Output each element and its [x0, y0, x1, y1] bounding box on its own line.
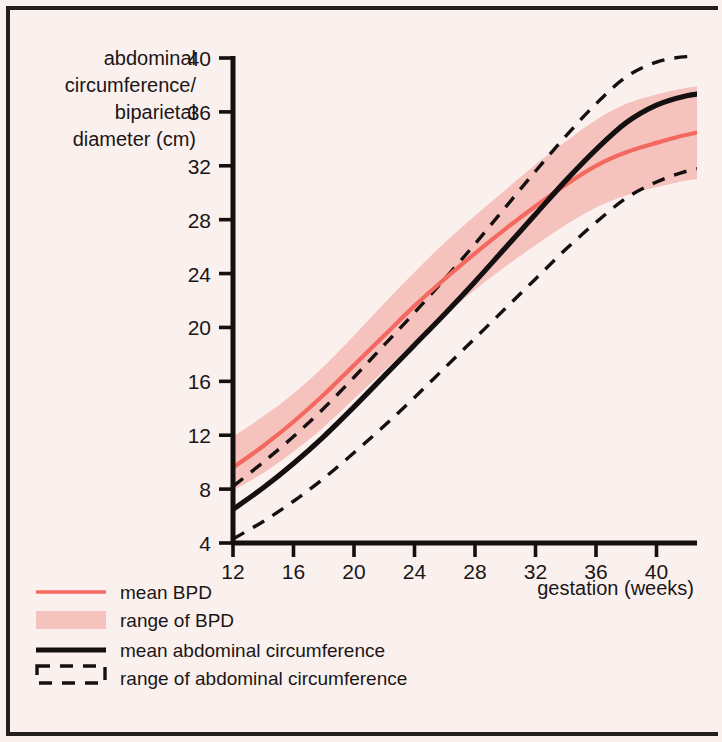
- x-tick-label: 16: [282, 560, 305, 583]
- y-tick-label: 8: [199, 478, 211, 501]
- chart-legend: mean BPD range of BPD mean abdominal cir…: [36, 582, 407, 689]
- y-axis-title: abdominal circumference/ biparietal diam…: [65, 47, 197, 150]
- y-tick-label: 16: [188, 370, 211, 393]
- legend-label-mean-ac: mean abdominal circumference: [120, 640, 385, 661]
- legend-label-range-ac: range of abdominal circumference: [120, 668, 407, 689]
- figure-container: 481216202428323640 1216202428323640 abdo…: [0, 0, 722, 742]
- y-axis-title-line-2: circumference/: [65, 74, 197, 96]
- y-axis-title-line-3: biparietal: [115, 101, 196, 123]
- legend-label-mean-bpd: mean BPD: [120, 582, 212, 603]
- growth-chart: 481216202428323640 1216202428323640 abdo…: [0, 0, 722, 742]
- y-tick-label: 24: [188, 263, 212, 286]
- x-tick-label: 12: [221, 560, 244, 583]
- x-tick-label: 20: [342, 560, 365, 583]
- legend-swatch-range-bpd: [36, 611, 106, 629]
- y-tick-label: 28: [188, 209, 211, 232]
- x-axis-title: gestation (weeks): [537, 577, 694, 599]
- y-axis-tick-labels: 481216202428323640: [188, 47, 212, 555]
- x-tick-label: 28: [463, 560, 486, 583]
- y-tick-label: 20: [188, 316, 211, 339]
- y-tick-label: 4: [199, 532, 211, 555]
- x-tick-label: 24: [403, 560, 427, 583]
- y-tick-label: 12: [188, 424, 211, 447]
- y-axis-title-line-1: abdominal: [104, 47, 196, 69]
- y-axis-title-line-4: diameter (cm): [73, 128, 196, 150]
- legend-swatch-range-ac: [37, 666, 105, 683]
- legend-label-range-bpd: range of BPD: [120, 610, 234, 631]
- y-tick-label: 32: [188, 155, 211, 178]
